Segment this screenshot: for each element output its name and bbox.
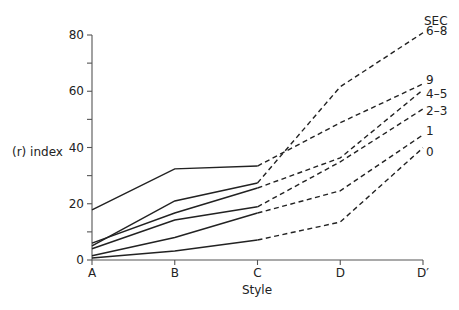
y-tick-label: 60 — [69, 84, 84, 98]
series-line-dashed — [258, 90, 424, 188]
series-end-label: 0 — [426, 145, 434, 159]
series-line-solid — [92, 240, 258, 258]
y-tick-label: 20 — [69, 197, 84, 211]
x-tick-label: A — [88, 266, 97, 280]
x-tick-label: D — [336, 266, 345, 280]
series-line-solid — [92, 183, 258, 246]
y-tick-label: 0 — [76, 253, 84, 267]
series-end-label: 4–5 — [426, 87, 447, 101]
series-lines — [92, 33, 423, 258]
axes: 020406080ABCDD′ — [69, 28, 430, 280]
series-end-label: 9 — [426, 73, 434, 87]
series-line-solid — [92, 188, 258, 243]
series-end-label: 2–3 — [426, 104, 447, 118]
line-chart: 020406080ABCDD′ 6–894–52–310 (r) index S… — [0, 0, 459, 310]
y-tick-label: 40 — [69, 141, 84, 155]
x-tick-label: D′ — [417, 266, 429, 280]
legend-title: SEC — [424, 14, 448, 28]
y-tick-label: 80 — [69, 28, 84, 42]
x-axis-label: Style — [242, 283, 272, 297]
x-tick-label: B — [171, 266, 179, 280]
series-labels: 6–894–52–310 — [426, 24, 447, 159]
series-line-dashed — [258, 33, 424, 183]
y-axis-label: (r) index — [12, 145, 63, 159]
series-end-label: 1 — [426, 124, 434, 138]
chart-canvas: 020406080ABCDD′ 6–894–52–310 (r) index S… — [0, 0, 459, 310]
x-tick-label: C — [253, 266, 261, 280]
series-line-dashed — [258, 135, 424, 213]
